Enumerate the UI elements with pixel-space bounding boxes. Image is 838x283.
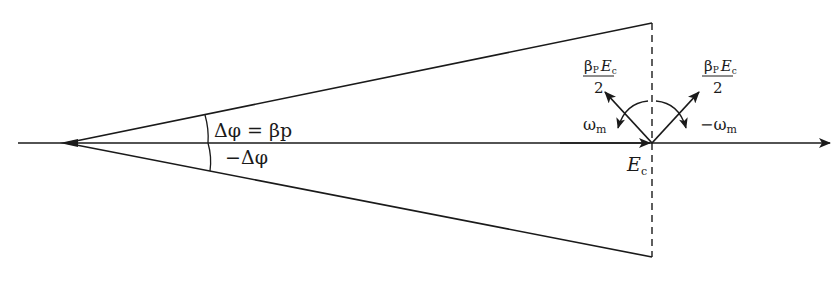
rotation-arc-right bbox=[656, 101, 686, 128]
label-omega-right: −ωm bbox=[700, 115, 737, 136]
label-sideband-right: βPEc 2 bbox=[702, 57, 737, 97]
cone-apex bbox=[60, 139, 78, 147]
angle-arc-upper bbox=[205, 115, 208, 143]
sideband-arrow-right bbox=[652, 92, 699, 143]
angle-arc-lower bbox=[208, 143, 211, 171]
label-delta-phi: Δφ = βp bbox=[214, 119, 292, 141]
cone-upper-edge bbox=[66, 23, 652, 143]
label-carrier: Ec bbox=[626, 153, 647, 178]
phasor-diagram: Δφ = βp −Δφ ωm −ωm Ec βPEc 2 βPEc 2 bbox=[0, 0, 838, 283]
svg-text:βPEc: βPEc bbox=[584, 57, 617, 76]
svg-text:2: 2 bbox=[713, 79, 723, 97]
sideband-arrow-left bbox=[605, 92, 652, 143]
label-sideband-left: βPEc 2 bbox=[583, 57, 617, 97]
rotation-arc-left bbox=[618, 101, 648, 128]
label-omega-left: ωm bbox=[583, 115, 607, 136]
svg-text:βPEc: βPEc bbox=[704, 57, 737, 76]
cone-lower-edge bbox=[66, 143, 652, 257]
label-neg-delta-phi: −Δφ bbox=[225, 146, 268, 168]
svg-text:2: 2 bbox=[594, 79, 604, 97]
